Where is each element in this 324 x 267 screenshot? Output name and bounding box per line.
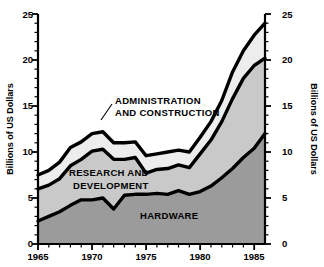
hardware-label: HARDWARE bbox=[140, 210, 198, 221]
x-tick-label-1970: 1970 bbox=[81, 251, 102, 262]
y-tick-label-15: 15 bbox=[22, 100, 33, 111]
x-tick-labels: 1965 1970 1975 1980 1985 bbox=[27, 251, 265, 262]
y-tick-labels-right: 25 20 15 10 5 0 bbox=[282, 9, 293, 249]
y-axis-title-left: Billions of US Dollars bbox=[5, 83, 15, 175]
stacked-area-chart: 25 20 15 10 5 0 25 20 15 10 5 0 1965 197… bbox=[0, 0, 324, 267]
admin-label-line1: ADMINISTRATION bbox=[115, 95, 201, 106]
y-tick-label-right-0: 0 bbox=[282, 238, 287, 249]
x-ticks bbox=[38, 244, 254, 250]
x-tick-label-1980: 1980 bbox=[189, 251, 210, 262]
y-tick-label-right-20: 20 bbox=[282, 54, 293, 65]
x-tick-label-1985: 1985 bbox=[243, 251, 265, 262]
y-tick-label-right-5: 5 bbox=[282, 192, 288, 203]
y-tick-labels-left: 25 20 15 10 5 0 bbox=[22, 9, 33, 249]
y-tick-label-0: 0 bbox=[28, 238, 33, 249]
admin-label-line2: AND CONSTRUCTION bbox=[115, 107, 220, 118]
x-tick-label-1965: 1965 bbox=[27, 251, 49, 262]
y-tick-label-right-25: 25 bbox=[282, 9, 293, 20]
y-tick-label-5: 5 bbox=[28, 192, 34, 203]
y-tick-label-10: 10 bbox=[22, 146, 33, 157]
research-label-line1: RESEARCH AND bbox=[69, 167, 149, 178]
y-tick-label-right-15: 15 bbox=[282, 100, 293, 111]
y-tick-label-25: 25 bbox=[22, 9, 33, 20]
research-label-line2: DEVELOPMENT bbox=[73, 180, 149, 191]
chart-canvas: 25 20 15 10 5 0 25 20 15 10 5 0 1965 197… bbox=[0, 0, 324, 267]
x-tick-label-1975: 1975 bbox=[135, 251, 157, 262]
y-tick-label-right-10: 10 bbox=[282, 146, 293, 157]
y-axis-title-right: Billions of US Dollars bbox=[309, 83, 319, 175]
y-tick-label-20: 20 bbox=[22, 54, 33, 65]
